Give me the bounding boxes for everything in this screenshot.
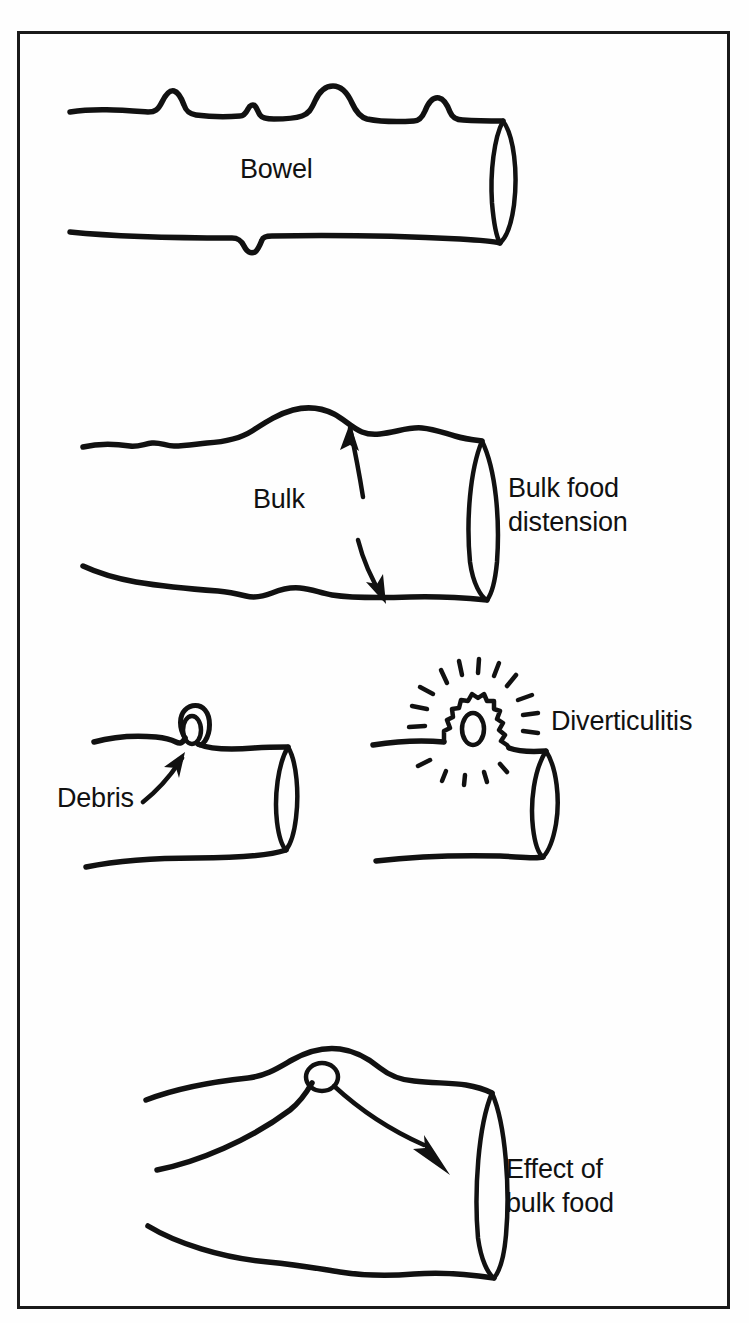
- panel-bulk-distension: Bulk Bulk food distension: [83, 408, 628, 604]
- starburst-ray-12: [418, 760, 430, 766]
- bulk-food-flow-shaft: [334, 1086, 424, 1145]
- starburst-ray-3: [478, 659, 479, 673]
- panel-effect-of-bulk-food: Effect of bulk food: [146, 1048, 614, 1278]
- starburst-ray-11: [523, 731, 538, 733]
- distended-upper-wall: [83, 408, 482, 447]
- effect-label-line1: Effect of: [506, 1154, 603, 1184]
- debris-cut-end-inner: [276, 747, 288, 850]
- starburst-ray-9: [518, 695, 532, 700]
- effect-cut-end-inner: [477, 1093, 494, 1278]
- distended-cut-end-outer: [482, 441, 498, 600]
- bowel-lower-wall: [70, 232, 500, 253]
- starburst-ray-7: [412, 706, 427, 709]
- panel-bowel: Bowel: [70, 86, 516, 253]
- starburst-ray-15: [484, 772, 487, 782]
- effect-bulk-sweep-line: [157, 1083, 312, 1170]
- debris-lower-wall: [86, 850, 286, 867]
- starburst-ray-5: [507, 675, 516, 686]
- starburst-ray-4: [494, 663, 499, 676]
- effect-label-line2: bulk food: [506, 1188, 614, 1218]
- panel-diverticulitis: Diverticulitis: [373, 659, 692, 861]
- inflamed-sac-lumen: [462, 713, 484, 745]
- debris-content: [183, 716, 201, 744]
- starburst-ray-2: [459, 661, 462, 675]
- bowel-upper-wall: [70, 86, 503, 122]
- effect-cut-end-outer: [492, 1093, 507, 1278]
- starburst-ray-13: [442, 771, 446, 781]
- debris-label: Debris: [57, 783, 134, 813]
- starburst-ray-16: [500, 764, 507, 772]
- bowel-diverticulitis-figure: Bowel Bulk Bulk food distension: [0, 0, 749, 1323]
- diverticulitis-cut-end-outer: [543, 751, 558, 857]
- bulk-food-distension-label-line2: distension: [508, 507, 628, 537]
- panel-bowel-label: Bowel: [240, 154, 313, 184]
- starburst-ray-6: [420, 687, 433, 694]
- panel-debris: Debris: [57, 706, 297, 868]
- bulk-food-distension-label-line1: Bulk food: [508, 473, 619, 503]
- bowel-cut-end-outer: [500, 121, 516, 243]
- debris-upper-wall-right: [198, 744, 288, 749]
- debris-pointer-head: [164, 752, 185, 778]
- starburst-ray-10: [523, 713, 538, 715]
- starburst-ray-1: [441, 670, 447, 683]
- diverticulitis-cut-end-inner: [532, 751, 546, 857]
- diverticulitis-lower-wall: [376, 856, 543, 861]
- debris-cut-end-outer: [286, 747, 297, 850]
- inflamed-sac-outline: [444, 694, 509, 748]
- distended-lower-wall: [83, 566, 487, 600]
- bulk-label: Bulk: [253, 484, 305, 514]
- figure-root: Bowel Bulk Bulk food distension: [0, 0, 749, 1323]
- starburst-ray-14: [464, 775, 465, 785]
- bowel-cut-end-inner: [491, 121, 503, 243]
- starburst-ray-8: [409, 726, 425, 727]
- diverticulitis-upper-wall-left: [373, 741, 444, 745]
- distended-cut-end-inner: [469, 441, 488, 600]
- diverticulitis-upper-wall-right: [509, 748, 546, 752]
- effect-lower-wall: [148, 1226, 494, 1278]
- inflammation-starburst: [409, 659, 538, 785]
- diverticulitis-label: Diverticulitis: [551, 706, 692, 736]
- debris-upper-wall: [94, 736, 185, 743]
